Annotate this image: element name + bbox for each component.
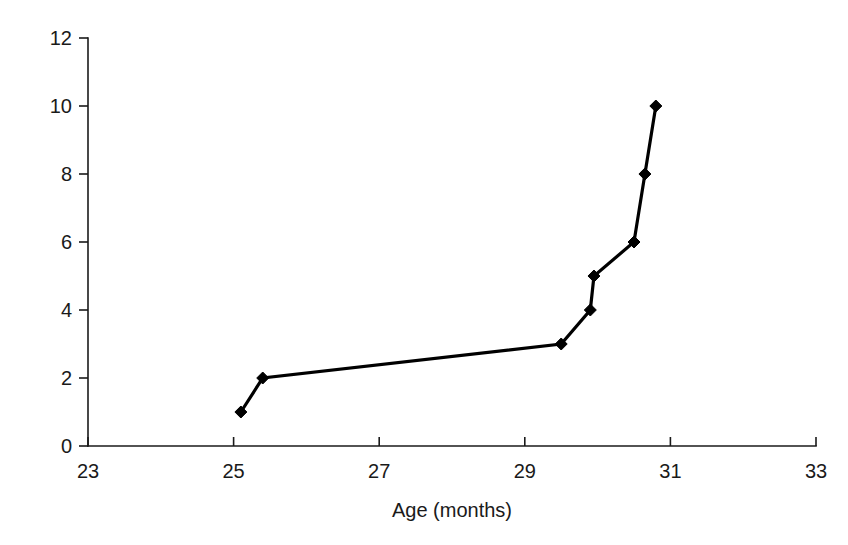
y-tick-label: 4 [61,299,72,321]
y-tick-label: 6 [61,231,72,253]
x-tick-label: 27 [368,460,390,482]
x-tick-label: 33 [805,460,827,482]
x-tick-label: 29 [514,460,536,482]
chart-background [0,0,848,545]
x-tick-label: 31 [659,460,681,482]
x-tick-label: 25 [222,460,244,482]
y-tick-label: 12 [50,27,72,49]
y-tick-label: 8 [61,163,72,185]
chart-figure: 024681012 232527293133 Cumulative number… [0,0,848,545]
y-tick-label: 10 [50,95,72,117]
y-tick-label: 0 [61,435,72,457]
x-axis-title: Age (months) [392,499,512,521]
y-tick-label: 2 [61,367,72,389]
line-chart: 024681012 232527293133 Cumulative number… [0,0,848,545]
x-tick-label: 23 [77,460,99,482]
